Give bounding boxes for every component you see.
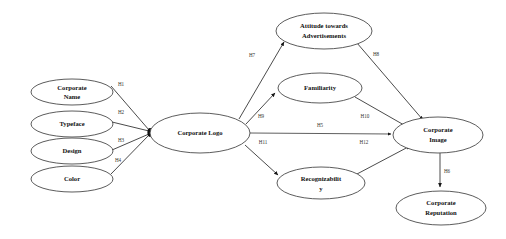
edge-h8 xyxy=(357,43,423,120)
diagram-canvas: Corporate Name Typeface Design Color Cor… xyxy=(0,0,506,239)
edge-label-h9: H9 xyxy=(258,113,265,119)
node-label-line1: Color xyxy=(64,175,80,182)
node-corporate-image[interactable]: Corporate Image xyxy=(393,117,483,153)
node-label-line1: Familiarity xyxy=(304,84,337,91)
edge-layer xyxy=(111,42,440,187)
node-shape xyxy=(396,191,486,225)
node-shape xyxy=(31,79,113,105)
edge-label-h3: H3 xyxy=(118,137,125,143)
edge-label-h8: H8 xyxy=(373,51,380,57)
edge-label-h11: H11 xyxy=(259,139,268,145)
node-label-line2: Name xyxy=(64,93,81,100)
edge-label-h6: H6 xyxy=(444,168,451,174)
node-label-line1: Corporate xyxy=(423,126,452,133)
node-design[interactable]: Design xyxy=(31,138,113,164)
node-label-line1: Corporate Logo xyxy=(177,129,223,136)
node-corporate-logo[interactable]: Corporate Logo xyxy=(150,113,250,153)
edge-h5 xyxy=(250,133,391,134)
node-label-line2: Advertisements xyxy=(302,32,346,39)
node-label-line2: Reputation xyxy=(425,209,457,216)
node-color[interactable]: Color xyxy=(31,166,113,192)
node-label-line2: Image xyxy=(429,136,447,143)
node-label-line1: Corporate xyxy=(426,199,455,206)
edge-label-h5: H5 xyxy=(317,122,324,128)
node-shape xyxy=(393,117,483,153)
edge-label-h10: H10 xyxy=(361,113,370,119)
node-shape xyxy=(276,13,372,49)
edge-h9 xyxy=(246,93,275,124)
node-corporate-reputation[interactable]: Corporate Reputation xyxy=(396,191,486,225)
edge-label-layer: H1 H2 H3 H4 H7 H8 H9 H10 H5 H11 H12 H6 xyxy=(115,51,451,174)
edge-h12 xyxy=(357,146,410,174)
edge-label-h7: H7 xyxy=(249,52,256,58)
edge-h11 xyxy=(245,145,278,175)
edge-label-h2: H2 xyxy=(118,109,125,115)
node-recognizability[interactable]: Recognizabilit y xyxy=(277,167,365,199)
node-label-line1: Corporate xyxy=(57,84,86,91)
node-label-line1: Recognizabilit xyxy=(301,175,342,182)
diagram-svg: Corporate Name Typeface Design Color Cor… xyxy=(0,0,506,239)
node-label-line1: Attitude towards xyxy=(300,22,348,29)
node-attitude-towards-advertisements[interactable]: Attitude towards Advertisements xyxy=(276,13,372,49)
node-typeface[interactable]: Typeface xyxy=(31,111,113,137)
edge-label-h4: H4 xyxy=(115,157,122,163)
edge-label-h12: H12 xyxy=(360,139,369,145)
node-shape xyxy=(277,167,365,199)
node-label-line1: Design xyxy=(62,147,81,154)
edge-h4 xyxy=(111,135,149,174)
node-corporate-name[interactable]: Corporate Name xyxy=(31,79,113,105)
node-familiarity[interactable]: Familiarity xyxy=(278,73,362,103)
node-label-line1: Typeface xyxy=(59,120,84,127)
edge-label-h1: H1 xyxy=(118,81,125,87)
